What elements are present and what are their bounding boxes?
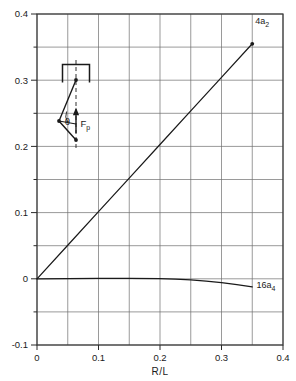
x-axis-tick-label: 0.2 bbox=[153, 352, 166, 363]
y-axis-tick-label: 0.4 bbox=[15, 8, 28, 19]
y-axis-tick-label: 0.3 bbox=[15, 75, 28, 86]
chart-figure: -0.100.10.20.30.4 00.10.20.30.4 4a2 16a4… bbox=[0, 0, 296, 381]
x-axis-title: R/L bbox=[151, 366, 168, 377]
y-axis-tick-label: 0 bbox=[23, 273, 28, 284]
x-axis-tick-label: 0.1 bbox=[92, 352, 105, 363]
joint-node-apex bbox=[74, 78, 78, 82]
joint-node-left bbox=[57, 119, 61, 123]
y-axis-tick-label: 0.2 bbox=[15, 141, 28, 152]
theta-label: θ bbox=[65, 116, 70, 127]
figure-background bbox=[0, 0, 296, 381]
x-axis-tick-label: 0 bbox=[34, 352, 39, 363]
y-axis-tick-label: -0.1 bbox=[12, 339, 28, 350]
series-endpoint-marker bbox=[250, 42, 254, 46]
x-axis-tick-label: 0.4 bbox=[276, 352, 289, 363]
x-axis-tick-label: 0.3 bbox=[215, 352, 228, 363]
y-axis-tick-label: 0.1 bbox=[15, 207, 28, 218]
joint-node-bottom bbox=[74, 138, 78, 142]
